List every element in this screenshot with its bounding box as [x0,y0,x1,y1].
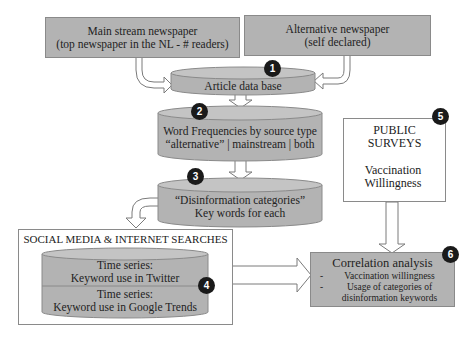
vaccination-line2: Willingness [365,177,422,190]
twitter-line1: Time series: [97,259,153,272]
bullet-usage: - Usage of categories of disinformation … [320,282,445,304]
step5-badge: 5 [432,108,449,125]
bullet-dash: - [320,282,334,304]
correlation-title: Correlation analysis [332,256,432,270]
google-line2: Keyword use in Google Trends [53,301,197,314]
public-surveys-title-line2: SURVEYS [343,137,446,150]
bullet-dash: - [320,271,334,282]
bullet-text: Vaccination willingness [334,271,445,282]
bullet-text-line1: Usage of categories of [334,282,445,293]
twitter-line2: Keyword use in Twitter [71,272,180,285]
public-surveys-title: PUBLIC SURVEYS [343,124,446,150]
google-line1: Time series: [97,288,153,301]
google-trends-timeseries: Time series: Keyword use in Google Trend… [42,287,208,315]
bullet-text: Usage of categories of disinformation ke… [334,282,445,304]
step6-badge: 6 [442,246,459,263]
step4-badge: 4 [198,277,215,294]
bullet-vaccination: - Vaccination willingness [320,271,445,282]
twitter-timeseries: Time series: Keyword use in Twitter [42,258,208,286]
bullet-text-line2: disinformation keywords [334,293,445,304]
vaccination-willingness: Vaccination Willingness [355,163,431,191]
correlation-analysis-box: Correlation analysis - Vaccination willi… [310,252,455,307]
